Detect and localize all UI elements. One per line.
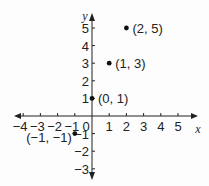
x-axis-name: x	[194, 122, 201, 136]
point-label: (2, 5)	[132, 21, 162, 36]
y-tick-label: −3	[74, 162, 89, 177]
data-point	[90, 96, 95, 101]
x-tick-label: 4	[157, 119, 164, 134]
point-label: (0, 1)	[98, 91, 128, 106]
y-axis-top-arrow-icon	[89, 13, 95, 21]
data-point	[124, 26, 129, 31]
data-point	[72, 131, 77, 136]
y-tick-label: 4	[82, 39, 89, 54]
point-label: (1, 3)	[115, 56, 145, 71]
y-tick-label: 3	[82, 56, 89, 71]
point-label: (−1, −1)	[26, 130, 72, 145]
x-tick-label: 2	[123, 119, 130, 134]
y-tick-label: −2	[74, 144, 89, 159]
x-axis-right-arrow-icon	[191, 113, 198, 119]
coordinate-plane: x y −4−3−2−1012345−3−2−112345 (−1, −1)(0…	[0, 0, 209, 186]
x-tick-label: 5	[174, 119, 181, 134]
y-tick-label: 1	[82, 91, 89, 106]
x-tick-label: 1	[106, 119, 113, 134]
y-tick-label: 2	[82, 74, 89, 89]
y-tick-label: 5	[82, 21, 89, 36]
x-tick-label: 3	[140, 119, 147, 134]
data-point	[107, 61, 112, 66]
y-axis-bottom-arrow-icon	[89, 172, 95, 180]
